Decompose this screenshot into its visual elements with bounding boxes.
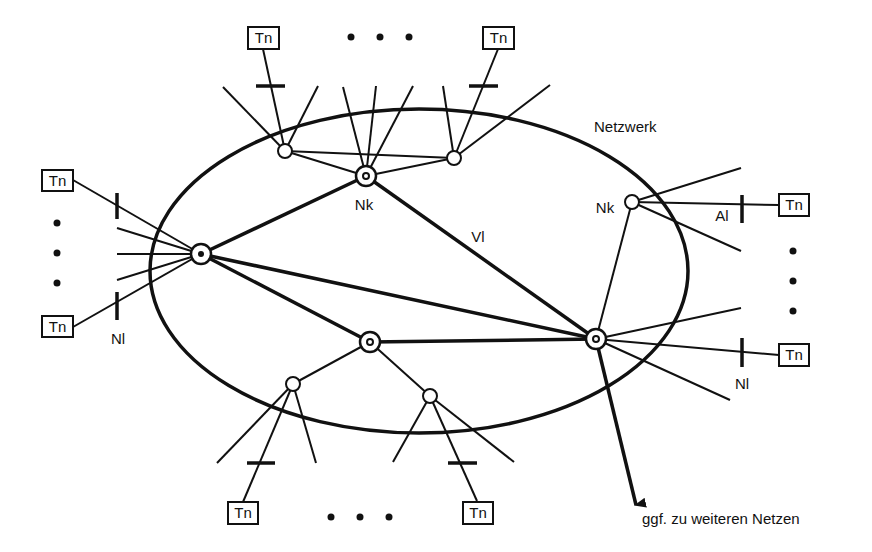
hub-node-left [191, 244, 211, 264]
bottom-left-node-links [217, 384, 316, 502]
bottom-right-node-links [393, 396, 514, 501]
terminal-box: Tn [779, 194, 809, 216]
terminal-label: Tn [469, 504, 487, 521]
right-hub-links [596, 308, 779, 400]
terminal-label: Tn [49, 172, 67, 189]
terminal-box: Tn [228, 502, 258, 524]
nl-label-right: Nl [735, 375, 749, 392]
terminal-label: Tn [785, 196, 803, 213]
terminal-label: Tn [234, 504, 252, 521]
node-top-right [447, 151, 461, 165]
terminal-box: Tn [42, 170, 73, 191]
nl-label-left: Nl [111, 330, 125, 347]
top-left-node-links [223, 49, 318, 151]
node-bottom-left [286, 377, 300, 391]
vl-label: Vl [471, 228, 484, 245]
trunk-links [201, 176, 596, 342]
ellipsis-dots-top [348, 34, 413, 41]
terminal-box: Tn [42, 316, 73, 337]
terminal-box: Tn [248, 27, 279, 49]
terminal-box: Tn [483, 27, 514, 49]
terminal-box: Tn [463, 502, 493, 524]
hub-node-bottom [360, 332, 380, 352]
terminal-label: Tn [785, 346, 803, 363]
terminal-label: Tn [49, 318, 67, 335]
al-label: Al [715, 207, 728, 224]
terminal-box: Tn [779, 344, 809, 366]
top-right-node-links [443, 49, 550, 158]
node-top-left [278, 144, 292, 158]
hub-node-top-nk [356, 166, 376, 186]
arrow-to-further-networks [596, 339, 636, 505]
ellipsis-dots-bottom [328, 514, 393, 521]
node-bottom-right [423, 389, 437, 403]
network-diagram: Tn Tn Tn Tn Tn Tn Tn Tn Netzwerk Nk [0, 0, 872, 552]
hub-node-right [586, 329, 606, 349]
further-networks-label: ggf. zu weiteren Netzen [642, 510, 800, 527]
left-hub-links [73, 180, 201, 327]
top-hub-nk-label: Nk [355, 196, 374, 213]
ellipsis-dots-right [790, 248, 797, 315]
terminal-label: Tn [490, 29, 508, 46]
ellipsis-dots-left [54, 220, 61, 287]
terminal-label: Tn [255, 29, 273, 46]
network-label: Netzwerk [594, 118, 657, 135]
bottom-hub-links [293, 342, 430, 396]
node-right-nk [625, 195, 639, 209]
right-node-nk-label: Nk [596, 199, 615, 216]
